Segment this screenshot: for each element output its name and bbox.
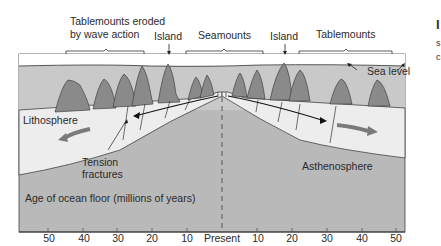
tick-label: 40 xyxy=(78,232,90,244)
tick-label: 50 xyxy=(43,232,55,244)
label-island-right: Island xyxy=(270,30,298,42)
tick-label: 10 xyxy=(181,232,193,244)
label-sea-level: Sea level xyxy=(367,65,410,77)
sky-band xyxy=(19,54,405,66)
tick-label: 20 xyxy=(286,232,298,244)
bracket-tablemounts-eroded xyxy=(66,49,144,54)
bracket-seamounts xyxy=(186,49,263,54)
tick-label: 50 xyxy=(390,232,402,244)
label-tension-line2: fractures xyxy=(82,168,123,180)
label-tablemounts: Tablemounts xyxy=(316,28,376,40)
label-asthenosphere: Asthenosphere xyxy=(302,160,373,172)
caption-fragment: c xyxy=(436,52,441,62)
tick-label: 30 xyxy=(112,232,124,244)
label-axis-title: Age of ocean floor (millions of years) xyxy=(25,192,195,204)
label-tension-line1: Tension xyxy=(82,156,118,168)
label-tablemounts-eroded-line1: Tablemounts eroded xyxy=(70,15,165,27)
label-tablemounts-eroded-line2: by wave action xyxy=(70,28,139,40)
tick-label: 20 xyxy=(146,232,158,244)
tick-label: 40 xyxy=(356,232,368,244)
label-island-left: Island xyxy=(154,30,182,42)
bracket-tablemounts xyxy=(299,49,392,54)
label-lithosphere: Lithosphere xyxy=(23,114,78,126)
caption-fragment: s xyxy=(436,38,441,48)
tick-label: 30 xyxy=(321,232,333,244)
caption-fragment: I xyxy=(436,17,440,32)
label-seamounts: Seamounts xyxy=(198,29,251,41)
label-brackets xyxy=(66,49,392,54)
tick-label: 10 xyxy=(252,232,264,244)
tick-label-present: Present xyxy=(204,232,240,244)
